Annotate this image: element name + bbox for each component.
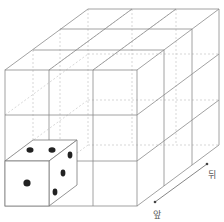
- right-face-grid: [137, 9, 219, 206]
- die: [5, 140, 77, 206]
- top-face-grid: [5, 9, 219, 70]
- die-pip-front-1: [23, 179, 30, 186]
- front-back-arrow: [154, 163, 209, 204]
- die-pip-right-1: [68, 152, 73, 159]
- cube-diagram: 앞 뒤: [0, 0, 224, 222]
- front-label: 앞: [153, 209, 161, 220]
- die-pip-top-2: [49, 147, 56, 153]
- back-label: 뒤: [208, 169, 216, 180]
- die-pip-right-3: [53, 189, 58, 196]
- die-pip-top-1: [27, 147, 34, 153]
- die-pip-right-2: [61, 170, 66, 177]
